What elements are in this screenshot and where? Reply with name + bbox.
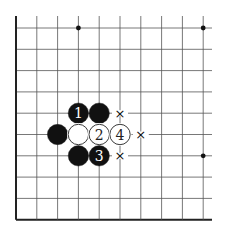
black-stone bbox=[89, 103, 109, 123]
white-stone: 2 bbox=[88, 123, 111, 146]
star-point-icon bbox=[76, 26, 81, 31]
white-stone: 4 bbox=[109, 123, 132, 146]
x-mark-icon: × bbox=[135, 127, 146, 142]
black-stone: 3 bbox=[89, 146, 109, 166]
white-stone bbox=[67, 123, 90, 146]
x-mark-icon: × bbox=[115, 106, 126, 121]
star-point-icon bbox=[201, 26, 206, 31]
go-board-diagram: 1243 ××× bbox=[0, 0, 226, 237]
star-point-icon bbox=[201, 153, 206, 158]
black-stone bbox=[68, 146, 88, 166]
black-stone: 1 bbox=[68, 103, 88, 123]
move-number-label: 1 bbox=[74, 105, 83, 121]
x-mark-icon: × bbox=[115, 148, 126, 163]
move-number-label: 2 bbox=[95, 127, 104, 143]
move-number-label: 3 bbox=[95, 148, 104, 164]
move-number-label: 4 bbox=[116, 127, 125, 143]
black-stone bbox=[47, 124, 67, 144]
